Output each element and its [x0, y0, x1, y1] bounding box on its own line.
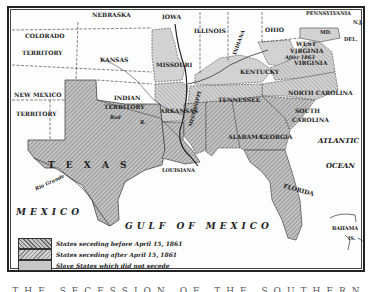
legend-swatch-slave [18, 260, 52, 271]
legend-label-before: States seceding before April 15, 1861 [56, 240, 182, 247]
legend-row-slave: Slave States which did not secede [18, 260, 182, 271]
missouri-region [152, 28, 185, 82]
label-gulf-of-mexico: GULF OF MEXICO [125, 222, 273, 231]
label-missouri: MISSOURI [156, 62, 192, 68]
label-indian-territory: TERRITORY [104, 104, 145, 110]
label-red-river: Red [110, 115, 121, 120]
legend-row-before: States seceding before April 15, 1861 [18, 238, 182, 249]
label-ocean: OCEAN [326, 162, 355, 169]
label-ohio: OHIO [265, 27, 284, 33]
label-iowa: IOWA [162, 14, 181, 20]
label-nebraska: NEBRASKA [92, 12, 131, 18]
label-north-carolina: NORTH CAROLINA [288, 90, 353, 96]
legend-row-after: States seceding after April 15, 1861 [18, 249, 182, 260]
label-del: DEL. [344, 37, 357, 42]
label-texas: T E X A S [48, 161, 131, 170]
legend-swatch-after [18, 249, 52, 260]
label-colorado-territory: TERRITORY [22, 50, 63, 56]
legend-label-slave: Slave States which did not secede [56, 262, 170, 269]
label-south: SOUTH [295, 108, 320, 114]
label-mexico: MEXICO [16, 208, 83, 217]
map-legend: States seceding before April 15, 1861 St… [18, 238, 182, 271]
label-pennsylvania: PENNSYLVANIA [306, 11, 351, 16]
legend-swatch-before [18, 238, 52, 249]
label-atlantic: ATLANTIC [318, 137, 359, 144]
label-nj: N.J. [353, 20, 363, 25]
label-red-river-r: R. [140, 120, 146, 125]
label-md: MD. [320, 30, 331, 35]
label-alabama: ALABAMA [228, 134, 263, 140]
map-caption: THE SECESSION OF THE SOUTHERN STATES [0, 286, 378, 292]
label-colorado: COLORADO [25, 33, 65, 39]
label-louisiana: LOUISIANA [162, 168, 195, 173]
label-georgia: GEORGIA [260, 134, 293, 140]
label-illinois: ILLINOIS [194, 28, 226, 34]
legend-label-after: States seceding after April 15, 1861 [56, 251, 177, 258]
texas-region [28, 80, 165, 226]
label-kansas: KANSAS [100, 57, 128, 63]
label-virginia: VIRGINIA [294, 60, 327, 66]
label-bahama: BAHAMA [332, 226, 358, 231]
label-kentucky: KENTUCKY [240, 69, 279, 75]
label-bahama-is: IS. [348, 236, 356, 241]
label-carolina: CAROLINA [292, 117, 329, 123]
label-new-mexico-territory: TERRITORY [16, 111, 57, 117]
label-indian: INDIAN [114, 95, 140, 101]
label-new-mexico: NEW MEXICO [14, 92, 62, 98]
bahama-islands [330, 214, 364, 250]
label-tennessee: TENNESSEE [218, 97, 260, 103]
